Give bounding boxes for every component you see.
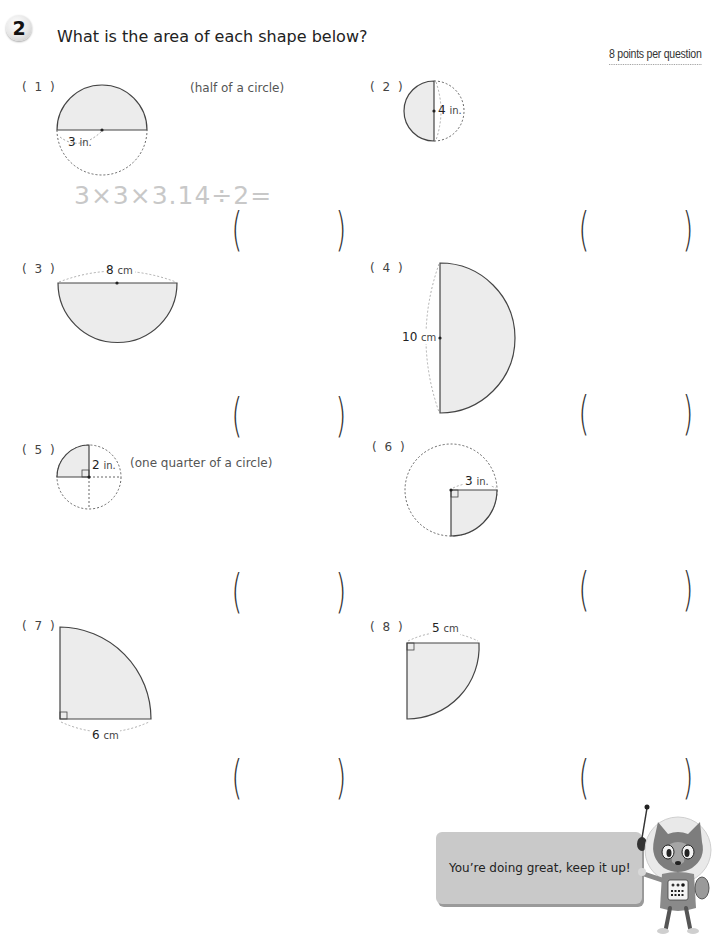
question-8-dimension: 5 cm	[431, 621, 460, 635]
question-8-answer-box[interactable]: ( )	[575, 754, 697, 798]
quarter-circle-figure-8	[0, 0, 720, 939]
encouragement-bubble: You’re doing great, keep it up!	[436, 832, 642, 904]
open-bracket: (	[579, 754, 590, 800]
encouragement-message: You’re doing great, keep it up!	[449, 861, 631, 875]
astronaut-cat-mascot-icon	[630, 800, 720, 939]
close-bracket: )	[683, 754, 694, 800]
